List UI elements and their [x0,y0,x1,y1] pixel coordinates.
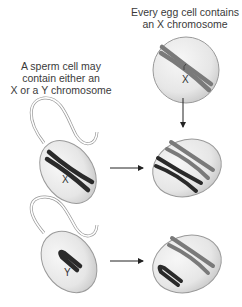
sperm-y-label: Y [64,267,71,278]
sperm-cell-y: Y [30,197,109,303]
sperm-x-label: X [62,174,69,185]
zygote-xy [145,226,230,303]
sex-determination-diagram: X X Y [0,0,242,307]
egg-cell: X [153,37,219,103]
egg-chromosome-label: X [182,74,189,85]
zygote-xx [145,130,230,207]
sperm-x-tail [31,98,97,144]
